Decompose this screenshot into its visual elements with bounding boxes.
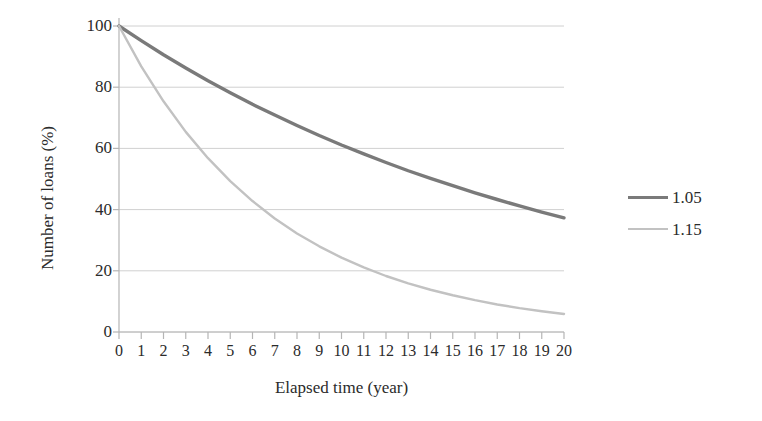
y-tick-label: 60 xyxy=(68,139,112,156)
x-axis-tick-labels: 01234567891011121314151617181920 xyxy=(0,343,762,367)
x-tick-label: 2 xyxy=(153,343,175,359)
x-axis-title: Elapsed time (year) xyxy=(119,378,564,398)
legend-item[interactable]: 1.05 xyxy=(628,181,758,213)
x-tick-label: 6 xyxy=(242,343,264,359)
line-chart: 020406080100 012345678910111213141516171… xyxy=(0,0,762,421)
y-tick-label: 20 xyxy=(68,262,112,279)
y-axis-title: Number of loans (%) xyxy=(38,88,58,308)
x-tick-label: 14 xyxy=(420,343,442,359)
legend-line-swatch xyxy=(628,228,668,230)
x-tick-label: 12 xyxy=(375,343,397,359)
chart-page: 020406080100 012345678910111213141516171… xyxy=(0,0,762,421)
legend-item[interactable]: 1.15 xyxy=(628,213,758,245)
x-tick-label: 8 xyxy=(286,343,308,359)
x-tick-label: 19 xyxy=(531,343,553,359)
x-tick-label: 16 xyxy=(464,343,486,359)
x-tick-label: 11 xyxy=(353,343,375,359)
y-axis-ticks xyxy=(113,26,119,332)
x-tick-label: 3 xyxy=(175,343,197,359)
y-tick-label: 100 xyxy=(68,17,112,34)
legend-label: 1.15 xyxy=(672,221,702,238)
legend-line-swatch xyxy=(628,196,668,199)
x-axis-ticks xyxy=(119,332,564,339)
x-tick-label: 20 xyxy=(553,343,575,359)
x-tick-label: 0 xyxy=(108,343,130,359)
x-tick-label: 9 xyxy=(308,343,330,359)
x-tick-label: 1 xyxy=(130,343,152,359)
y-tick-label: 80 xyxy=(68,78,112,95)
y-tick-label: 40 xyxy=(68,201,112,218)
x-tick-label: 13 xyxy=(397,343,419,359)
x-tick-label: 15 xyxy=(442,343,464,359)
chart-legend: 1.051.15 xyxy=(628,181,758,245)
x-tick-label: 7 xyxy=(264,343,286,359)
gridlines xyxy=(119,26,564,332)
x-tick-label: 18 xyxy=(509,343,531,359)
y-tick-label: 0 xyxy=(68,323,112,340)
axis-lines xyxy=(119,18,564,332)
legend-label: 1.05 xyxy=(672,189,702,206)
x-tick-label: 10 xyxy=(331,343,353,359)
x-tick-label: 5 xyxy=(219,343,241,359)
x-tick-label: 17 xyxy=(486,343,508,359)
series-line-1.05 xyxy=(119,26,564,218)
x-tick-label: 4 xyxy=(197,343,219,359)
